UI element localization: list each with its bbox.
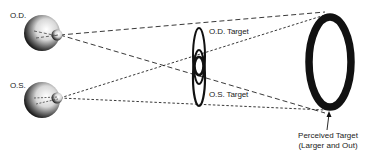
od-target-label: O.D. Target (209, 27, 249, 36)
od-eye-icon (24, 15, 63, 51)
os-target-label: O.S. Target (209, 90, 248, 99)
overlap-ring (195, 57, 204, 75)
os-eye-label: O.S. (10, 81, 26, 90)
perceived-target-ring (309, 17, 351, 107)
perceived-target-title: Perceived Target (288, 131, 366, 141)
od-eye-label: O.D. (10, 11, 26, 20)
pointer-arrow-icon (327, 111, 332, 130)
perceived-target-caption: Perceived Target (Larger and Out) (288, 131, 366, 151)
os-eye-icon (24, 82, 63, 118)
perceived-target-note: (Larger and Out) (288, 141, 366, 151)
real-targets (193, 28, 205, 106)
